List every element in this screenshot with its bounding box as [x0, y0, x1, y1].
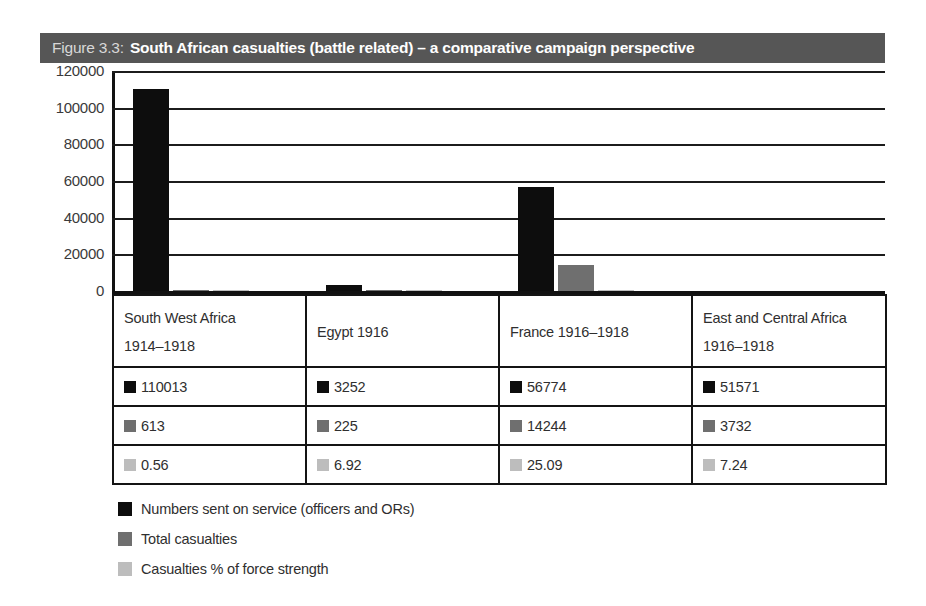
series-swatch-icon — [124, 459, 136, 471]
bar-0-0 — [133, 89, 169, 291]
series-swatch-icon — [510, 420, 522, 432]
cell-value: 6.92 — [334, 457, 361, 473]
table-row: 0.566.9225.097.24 — [113, 445, 886, 484]
legend-swatch-light-gray — [118, 562, 132, 576]
campaign-name: South West Africa — [124, 304, 305, 332]
figure-container: Figure 3.3: South African casualties (ba… — [0, 0, 926, 606]
plot-box — [112, 68, 885, 296]
table-header-cell: South West Africa1914–1918 — [113, 295, 306, 367]
bar-1-2 — [406, 290, 442, 292]
legend-item[interactable]: Numbers sent on service (officers and OR… — [118, 494, 718, 524]
table-data-cell: 225 — [306, 406, 499, 445]
bars-layer — [115, 68, 885, 291]
table-data-cell: 7.24 — [692, 445, 886, 484]
table-data-cell: 51571 — [692, 367, 886, 406]
cell-value: 3732 — [720, 418, 751, 434]
cell-value: 56774 — [527, 379, 566, 395]
y-axis-tick-label: 100000 — [56, 99, 104, 116]
campaign-name: Egypt 1916 — [317, 318, 498, 346]
series-swatch-icon — [703, 420, 715, 432]
campaign-name: East and Central Africa — [703, 304, 885, 332]
cell-value: 25.09 — [527, 457, 562, 473]
y-axis-tick-labels: 120000100000800006000040000200000 — [40, 68, 108, 296]
table-data-cell: 56774 — [499, 367, 692, 406]
series-swatch-icon — [317, 381, 329, 393]
chart-plot-area: 120000100000800006000040000200000 — [40, 68, 885, 296]
series-swatch-icon — [317, 459, 329, 471]
series-swatch-icon — [317, 420, 329, 432]
cell-value: 3252 — [334, 379, 365, 395]
table-row: 11001332525677451571 — [113, 367, 886, 406]
table-data-cell: 6.92 — [306, 445, 499, 484]
bar-2-1 — [558, 265, 594, 291]
bar-1-1 — [366, 290, 402, 292]
series-swatch-icon — [703, 381, 715, 393]
legend-item-label: Casualties % of force strength — [141, 561, 328, 577]
bar-0-2 — [213, 290, 249, 292]
cell-value: 110013 — [141, 379, 187, 395]
table-header-row: South West Africa1914–1918Egypt 1916Fran… — [113, 295, 886, 367]
series-swatch-icon — [510, 381, 522, 393]
table-row: 613225142443732 — [113, 406, 886, 445]
table-header-cell: Egypt 1916 — [306, 295, 499, 367]
legend-item-label: Numbers sent on service (officers and OR… — [141, 501, 414, 517]
cell-value: 14244 — [527, 418, 566, 434]
table-data-cell: 110013 — [113, 367, 306, 406]
legend-swatch-black — [118, 502, 132, 516]
legend-item[interactable]: Total casualties — [118, 524, 718, 554]
chart-legend: Numbers sent on service (officers and OR… — [118, 494, 718, 584]
campaign-name: France 1916–1918 — [510, 318, 691, 346]
series-swatch-icon — [510, 459, 522, 471]
table-data-cell: 14244 — [499, 406, 692, 445]
bar-0-1 — [173, 290, 209, 292]
y-axis-tick-label: 0 — [96, 282, 104, 299]
cell-value: 613 — [141, 418, 165, 434]
series-swatch-icon — [703, 459, 715, 471]
table-data-cell: 3732 — [692, 406, 886, 445]
cell-value: 7.24 — [720, 457, 747, 473]
series-swatch-icon — [124, 381, 136, 393]
bar-2-0 — [518, 187, 554, 291]
figure-number-label: Figure 3.3: — [52, 39, 124, 57]
series-swatch-icon — [124, 420, 136, 432]
figure-title-bar: Figure 3.3: South African casualties (ba… — [40, 33, 885, 63]
table-data-cell: 0.56 — [113, 445, 306, 484]
y-axis-tick-label: 20000 — [64, 245, 104, 262]
y-axis-tick-label: 80000 — [64, 135, 104, 152]
legend-item-label: Total casualties — [141, 531, 237, 547]
data-table: South West Africa1914–1918Egypt 1916Fran… — [112, 294, 887, 485]
bar-1-0 — [326, 285, 362, 291]
campaign-years: 1916–1918 — [703, 332, 885, 360]
table-header-cell: East and Central Africa1916–1918 — [692, 295, 886, 367]
legend-swatch-dark-gray — [118, 532, 132, 546]
y-axis-tick-label: 40000 — [64, 209, 104, 226]
table-data-cell: 3252 — [306, 367, 499, 406]
figure-title-text: South African casualties (battle related… — [130, 39, 694, 57]
bar-2-2 — [598, 290, 634, 292]
cell-value: 225 — [334, 418, 358, 434]
cell-value: 51571 — [720, 379, 759, 395]
cell-value: 0.56 — [141, 457, 168, 473]
y-axis-tick-label: 60000 — [64, 172, 104, 189]
table-header-cell: France 1916–1918 — [499, 295, 692, 367]
y-axis-tick-label: 120000 — [56, 62, 104, 79]
campaign-years: 1914–1918 — [124, 332, 305, 360]
table-data-cell: 25.09 — [499, 445, 692, 484]
table-data-cell: 613 — [113, 406, 306, 445]
legend-item[interactable]: Casualties % of force strength — [118, 554, 718, 584]
